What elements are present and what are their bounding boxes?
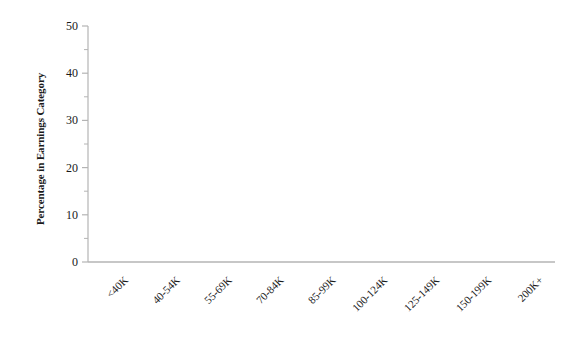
x-axis-tick-labels: <40K40-54K55-69K70-84K85-99K100-124K125-… xyxy=(0,0,576,343)
chart-figure: Percentage in Earnings Category 01020304… xyxy=(0,0,576,343)
